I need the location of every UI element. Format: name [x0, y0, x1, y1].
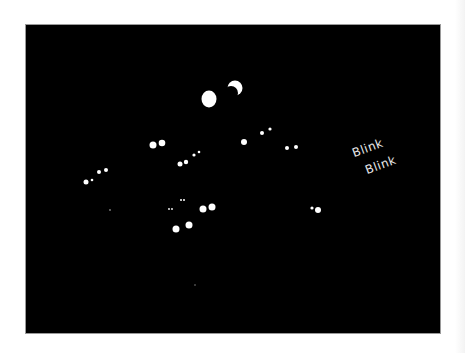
eye-right-icon	[268, 127, 271, 130]
eye-left-icon	[241, 139, 247, 145]
eye-right-icon	[104, 168, 108, 172]
eye-left-icon	[97, 170, 101, 174]
eye-left-icon	[192, 153, 195, 156]
eye-left-icon	[173, 226, 180, 233]
eye-left-icon	[285, 146, 289, 150]
eye-left-icon	[260, 131, 264, 135]
full-moon-icon	[202, 91, 217, 108]
eye-right-icon	[198, 151, 201, 154]
eye-right-icon	[183, 199, 185, 201]
faint-dot-icon	[109, 209, 111, 211]
eye-right-icon	[184, 160, 188, 164]
eye-right-icon	[294, 145, 298, 149]
eye-right-icon	[91, 179, 94, 182]
night-illustration-panel: Blink Blink	[26, 25, 440, 333]
eye-left-icon	[180, 199, 182, 201]
eye-left-icon	[168, 208, 170, 210]
page-edge-strip	[455, 0, 465, 353]
eye-right-icon	[171, 208, 173, 210]
eye-left-icon	[178, 162, 183, 167]
eye-left-icon	[150, 142, 157, 149]
eye-left-icon	[200, 206, 207, 213]
faint-dot-icon	[194, 284, 196, 286]
eye-right-icon	[186, 222, 193, 229]
eye-right-icon	[159, 140, 166, 147]
crescent-moon-icon	[224, 81, 243, 101]
eyes-in-dark-drawing	[26, 25, 440, 333]
eye-right-icon	[209, 204, 216, 211]
eye-left-icon	[84, 180, 89, 185]
eye-left-icon	[310, 206, 313, 209]
eye-right-icon	[315, 207, 321, 213]
